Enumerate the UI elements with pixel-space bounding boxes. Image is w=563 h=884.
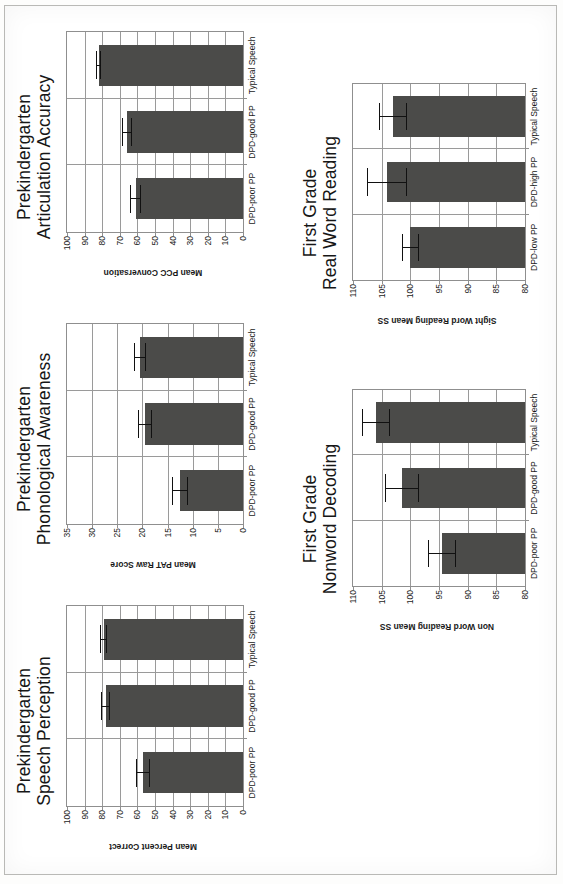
error-bar-cap-bottom bbox=[106, 625, 107, 653]
plot-area-phonological-awareness: 05101520253035DPD-poor PPDPD-good PPTypi… bbox=[66, 323, 244, 525]
error-bar-cap-top bbox=[367, 168, 368, 196]
x-tick-label: DPD-poor PP bbox=[247, 457, 257, 524]
plot-area-articulation-accuracy: 0102030405060708090100DPD-poor PPDPD-goo… bbox=[66, 31, 244, 233]
bar-dpd-poor-pp bbox=[143, 752, 243, 793]
y-tick-label: 35 bbox=[62, 528, 72, 537]
error-bar-stem bbox=[367, 182, 407, 183]
chart-title-real-word-reading: First GradeReal Word Reading bbox=[300, 75, 340, 351]
y-tick-label: 10 bbox=[188, 528, 198, 537]
y-axis-title-nonword-decoding: Non Word Reading Mean SS bbox=[357, 622, 517, 632]
error-bar-cap-top bbox=[402, 234, 403, 262]
y-tick-label: 90 bbox=[80, 236, 90, 245]
error-bar bbox=[122, 118, 133, 146]
scanned-figure-page: PrekindergartenSpeech Perception01020304… bbox=[0, 0, 563, 884]
y-tick-label: 110 bbox=[348, 284, 358, 298]
y-tick-label: 10 bbox=[220, 236, 230, 245]
x-tick-label: Typical Speech bbox=[247, 606, 257, 673]
y-tick-label: 15 bbox=[163, 528, 173, 537]
y-tick-label: 100 bbox=[405, 590, 415, 604]
y-axis-title-speech-perception: Mean Percent Correct bbox=[73, 842, 233, 852]
y-tick-label: 70 bbox=[115, 236, 125, 245]
error-bar-cap-top bbox=[136, 759, 137, 787]
bar-dpd-poor-pp bbox=[136, 178, 243, 219]
y-tick-label: 40 bbox=[168, 810, 178, 819]
bar-typical-speech bbox=[376, 402, 525, 443]
chart-title-nonword-decoding: First GradeNonword Decoding bbox=[300, 381, 340, 657]
figure-body: PrekindergartenSpeech Perception01020304… bbox=[0, 0, 563, 879]
bar-dpd-poor-pp bbox=[180, 470, 243, 511]
error-bar-cap-bottom bbox=[131, 118, 132, 146]
bar-dpd-good-pp bbox=[402, 468, 525, 509]
y-tick-label: 105 bbox=[377, 590, 387, 604]
x-tick-label: DPD-good PP bbox=[247, 391, 257, 458]
error-bar-cap-top bbox=[101, 692, 102, 720]
y-tick-label: 30 bbox=[87, 528, 97, 537]
x-tick-label: DPD-poor PP bbox=[529, 521, 539, 586]
x-tick-label: DPD-good PP bbox=[247, 99, 257, 166]
bar-dpd-high-pp bbox=[387, 162, 525, 203]
y-axis-title-real-word-reading: Sight Word Reading Mean SS bbox=[357, 316, 517, 326]
error-bar bbox=[367, 168, 407, 196]
y-tick-label: 0 bbox=[238, 236, 248, 241]
error-bar bbox=[172, 477, 188, 505]
error-bar-stem bbox=[138, 424, 152, 425]
category-separator bbox=[67, 98, 243, 99]
y-tick-label: 100 bbox=[62, 236, 72, 250]
bar-typical-speech bbox=[393, 96, 525, 137]
error-bar bbox=[138, 410, 152, 438]
bar-typical-speech bbox=[104, 619, 243, 660]
error-bar bbox=[130, 185, 141, 213]
error-bar bbox=[101, 692, 110, 720]
y-tick-label: 95 bbox=[434, 284, 444, 293]
y-axis-title-articulation-accuracy: Mean PCC Conversation bbox=[73, 268, 233, 278]
chart-title-phonological-awareness: PrekindergartenPhonological Awareness bbox=[14, 315, 54, 583]
error-bar bbox=[96, 51, 101, 79]
error-bar-cap-bottom bbox=[151, 410, 152, 438]
y-tick-label: 80 bbox=[97, 810, 107, 819]
gridline bbox=[92, 324, 93, 524]
y-tick-label: 40 bbox=[168, 236, 178, 245]
chart-title-line: Phonological Awareness bbox=[34, 315, 54, 583]
error-bar-cap-bottom bbox=[100, 51, 101, 79]
y-tick-label: 95 bbox=[434, 590, 444, 599]
error-bar-cap-top bbox=[362, 409, 363, 437]
y-tick-label: 20 bbox=[203, 810, 213, 819]
error-bar-cap-top bbox=[100, 625, 101, 653]
error-bar-cap-bottom bbox=[418, 234, 419, 262]
chart-title-line: Prekindergarten bbox=[14, 19, 34, 295]
error-bar-cap-top bbox=[130, 185, 131, 213]
y-tick-label: 60 bbox=[132, 810, 142, 819]
y-tick-label: 0 bbox=[238, 810, 248, 815]
x-tick-label: DPD-good PP bbox=[529, 455, 539, 520]
error-bar-cap-bottom bbox=[455, 540, 456, 568]
error-bar-cap-bottom bbox=[406, 103, 407, 131]
category-separator bbox=[67, 390, 243, 391]
chart-panel-phonological-awareness: PrekindergartenPhonological Awareness051… bbox=[14, 315, 264, 583]
y-tick-label: 5 bbox=[213, 528, 223, 533]
y-tick-label: 90 bbox=[463, 284, 473, 293]
error-bar-cap-bottom bbox=[406, 168, 407, 196]
y-tick-label: 30 bbox=[185, 236, 195, 245]
category-separator bbox=[353, 520, 525, 521]
bar-dpd-low-pp bbox=[410, 227, 525, 268]
y-tick-label: 20 bbox=[203, 236, 213, 245]
y-tick-label: 10 bbox=[220, 810, 230, 819]
chart-panel-speech-perception: PrekindergartenSpeech Perception01020304… bbox=[14, 597, 264, 865]
category-separator bbox=[67, 672, 243, 673]
chart-panel-real-word-reading: First GradeReal Word Reading808590951001… bbox=[300, 75, 546, 351]
y-tick-label: 90 bbox=[463, 590, 473, 599]
chart-title-line: Nonword Decoding bbox=[320, 381, 340, 657]
y-tick-label: 85 bbox=[491, 284, 501, 293]
category-separator bbox=[353, 214, 525, 215]
y-tick-label: 80 bbox=[520, 590, 530, 599]
chart-title-line: Real Word Reading bbox=[320, 75, 340, 351]
bar-dpd-good-pp bbox=[106, 685, 243, 726]
x-tick-label: DPD-poor PP bbox=[247, 739, 257, 806]
y-tick-label: 85 bbox=[491, 590, 501, 599]
error-bar-cap-top bbox=[138, 410, 139, 438]
error-bar bbox=[402, 234, 419, 262]
gridline bbox=[117, 324, 118, 524]
chart-title-line: Prekindergarten bbox=[14, 597, 34, 865]
bar-dpd-good-pp bbox=[127, 111, 243, 152]
x-tick-label: Typical Speech bbox=[529, 390, 539, 455]
